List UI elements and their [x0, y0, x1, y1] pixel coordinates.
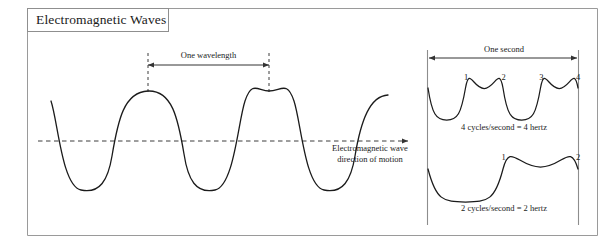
page-title: Electromagnetic Waves [36, 12, 166, 28]
one-second-label: One second [430, 44, 578, 54]
four-hertz-caption: 4 cycles/second = 4 hertz [430, 122, 578, 132]
wave-4hz-curve [428, 78, 578, 120]
wave-direction-label: Electromagnetic wave direction of motion [331, 143, 409, 166]
main-wave-curve [51, 88, 388, 191]
peak-number-4hz-4: 4 [571, 72, 585, 82]
peak-number-4hz-1: 1 [459, 72, 473, 82]
wavelength-label: One wavelength [148, 50, 269, 60]
wave-2hz-curve [428, 156, 578, 202]
two-hertz-caption: 2 cycles/second = 2 hertz [430, 203, 578, 213]
peak-number-2hz-2: 2 [571, 152, 585, 162]
peak-number-2hz-1: 1 [497, 152, 511, 162]
electromagnetic-waves-figure: Electromagnetic Waves One wavelength Ele… [0, 0, 605, 249]
peak-number-4hz-2: 2 [497, 72, 511, 82]
peak-number-4hz-3: 3 [534, 72, 548, 82]
